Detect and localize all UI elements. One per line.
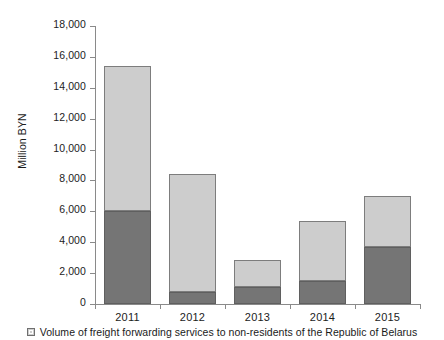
y-axis-tick: 2,000: [0, 273, 95, 274]
y-axis-line: [95, 26, 96, 305]
y-axis-tick-label: 2,000: [59, 265, 86, 277]
bar-column: [364, 196, 411, 304]
y-axis-tick-mark: [90, 180, 95, 181]
bar-segment-upper: [364, 196, 411, 247]
bar-chart: Million BYN 02,0004,0006,0008,00010,0001…: [0, 0, 444, 340]
bar-segment-upper: [104, 66, 151, 211]
y-axis-tick-mark: [90, 26, 95, 27]
square-swatch-icon: [27, 328, 35, 336]
bar-segment-upper: [234, 260, 281, 287]
bar-segment-upper: [169, 174, 216, 292]
bar-segment-lower: [169, 292, 216, 304]
y-axis-tick-label: 10,000: [53, 142, 86, 154]
y-axis-tick: 0: [0, 304, 95, 305]
y-axis-tick-mark: [90, 273, 95, 274]
y-axis-tick: 18,000: [0, 26, 95, 27]
y-axis-tick-label: 12,000: [53, 111, 86, 123]
y-axis-tick-label: 0: [80, 296, 86, 308]
x-axis-tick-mark: [420, 304, 421, 309]
y-axis-tick-label: 6,000: [59, 203, 86, 215]
y-axis-tick-label: 14,000: [53, 80, 86, 92]
bar-segment-lower: [299, 281, 346, 304]
y-axis-tick: 4,000: [0, 242, 95, 243]
x-axis-tick-label: 2014: [288, 311, 358, 323]
legend-item-label: Volume of freight forwarding services to…: [40, 326, 418, 338]
bar-segment-lower: [104, 211, 151, 304]
y-axis-tick: 6,000: [0, 211, 95, 212]
y-axis-tick-label: 18,000: [53, 18, 86, 30]
y-axis-tick-label: 8,000: [59, 172, 86, 184]
chart-legend: Volume of freight forwarding services to…: [0, 326, 444, 338]
x-axis-line: [95, 304, 420, 305]
bar-column: [104, 66, 151, 304]
x-axis-tick-mark: [355, 304, 356, 309]
x-axis-tick-label: 2015: [353, 311, 423, 323]
y-axis-tick-mark: [90, 242, 95, 243]
y-axis-tick-label: 4,000: [59, 234, 86, 246]
y-axis-tick-mark: [90, 150, 95, 151]
bar-segment-lower: [234, 287, 281, 304]
x-axis-tick-label: 2012: [158, 311, 228, 323]
bar-segment-upper: [299, 221, 346, 281]
legend-item: Volume of freight forwarding services to…: [27, 326, 418, 338]
bar-segment-lower: [364, 247, 411, 304]
y-axis-tick: 8,000: [0, 180, 95, 181]
bar-column: [169, 174, 216, 304]
y-axis-tick-mark: [90, 57, 95, 58]
x-axis-tick-mark: [225, 304, 226, 309]
y-axis-tick-mark: [90, 88, 95, 89]
y-axis-tick: 12,000: [0, 119, 95, 120]
bar-column: [234, 260, 281, 304]
y-axis-tick: 16,000: [0, 57, 95, 58]
y-axis-tick: 14,000: [0, 88, 95, 89]
x-axis-tick-label: 2011: [93, 311, 163, 323]
y-axis-tick-mark: [90, 211, 95, 212]
bar-column: [299, 221, 346, 304]
x-axis-tick-label: 2013: [223, 311, 293, 323]
y-axis-title: Million BYN: [16, 81, 28, 201]
y-axis-tick: 10,000: [0, 150, 95, 151]
x-axis-tick-mark: [160, 304, 161, 309]
y-axis-tick-label: 16,000: [53, 49, 86, 61]
x-axis-tick-mark: [290, 304, 291, 309]
x-axis-tick-mark: [95, 304, 96, 309]
y-axis-tick-mark: [90, 119, 95, 120]
